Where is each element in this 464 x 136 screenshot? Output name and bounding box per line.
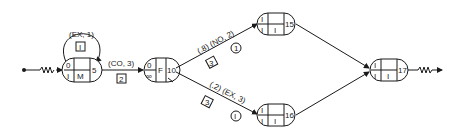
edge-10-15: (.8) (NO, 2) 3 1 bbox=[176, 24, 257, 68]
node-cell: 0 bbox=[147, 61, 152, 70]
node-15[interactable]: I I I 15 bbox=[257, 13, 295, 35]
source-arrow bbox=[22, 67, 62, 73]
sink-arrow bbox=[408, 67, 442, 73]
node-5[interactable]: 0 I M 5 bbox=[62, 58, 102, 82]
node-number: 15 bbox=[285, 20, 294, 29]
edge-box-value: 2 bbox=[119, 75, 124, 84]
node-cell: I bbox=[274, 117, 276, 126]
node-cell: I bbox=[374, 61, 376, 70]
edge-15-17 bbox=[296, 24, 369, 68]
edge-label: (.8) (NO, 2) bbox=[196, 29, 236, 56]
node-cell: 0 bbox=[66, 61, 71, 70]
edge-circle-value: I bbox=[234, 112, 236, 121]
edge-self-loop-5: (EX, 1) I bbox=[63, 30, 100, 62]
node-cell: I bbox=[274, 26, 276, 35]
edge-5-10: (CO, 3) 2 bbox=[102, 59, 143, 84]
node-cell: F bbox=[158, 66, 163, 75]
squiggle-icon bbox=[418, 67, 432, 73]
node-cell: I bbox=[261, 26, 263, 35]
node-16[interactable]: I I I 16 bbox=[257, 104, 295, 126]
node-cell: I bbox=[261, 106, 263, 115]
network-diagram: (EX, 1) I 0 I M 5 (CO, 3) 2 0 ∞ F 10 (.8… bbox=[0, 0, 464, 136]
edge-label: (.2) (EX, 3) bbox=[208, 80, 247, 106]
node-number: 5 bbox=[92, 66, 97, 75]
node-number: 16 bbox=[285, 111, 294, 120]
edge-box-value: 3 bbox=[205, 98, 210, 107]
node-17[interactable]: I I I 17 bbox=[370, 59, 408, 81]
edge-label: (EX, 1) bbox=[69, 30, 94, 39]
node-number: 17 bbox=[398, 66, 407, 75]
squiggle-icon bbox=[40, 67, 54, 73]
node-cell: I bbox=[374, 72, 376, 81]
node-number: 10 bbox=[167, 66, 176, 75]
edge-box-value: I bbox=[79, 43, 81, 52]
edge-circle-value: 1 bbox=[234, 44, 239, 53]
edge-box-value: 3 bbox=[209, 59, 214, 68]
node-10[interactable]: 0 ∞ F 10 bbox=[144, 58, 180, 82]
edge-10-16: (.2) (EX, 3) 3 I bbox=[168, 72, 257, 121]
edge-16-17 bbox=[296, 72, 369, 115]
node-cell: I bbox=[261, 15, 263, 24]
node-cell: ∞ bbox=[146, 72, 152, 81]
node-cell: M bbox=[77, 72, 84, 81]
node-cell: I bbox=[67, 72, 69, 81]
node-cell: I bbox=[387, 72, 389, 81]
node-cell: I bbox=[261, 117, 263, 126]
edge-label: (CO, 3) bbox=[108, 59, 135, 68]
